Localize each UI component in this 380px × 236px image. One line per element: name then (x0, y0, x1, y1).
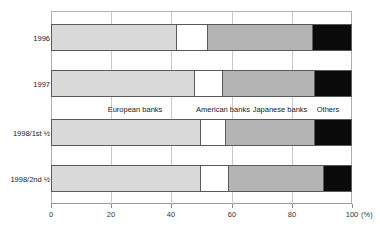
bar-segment-american-banks (195, 71, 223, 96)
bar-row (51, 165, 352, 192)
legend-label-japanese-banks: Japanese banks (253, 105, 308, 114)
legend-label-american-banks: American banks (196, 105, 250, 114)
x-axis-tick (352, 204, 353, 208)
x-axis-tick-label: 80 (288, 210, 296, 219)
bar-segment-japanese-banks (223, 71, 316, 96)
y-axis-category-label: 1997 (33, 79, 50, 88)
bar-row (51, 24, 352, 51)
x-axis-tick (111, 204, 112, 208)
bar-segment-japanese-banks (226, 120, 316, 145)
legend-label-european-banks: European banks (108, 105, 163, 114)
bar-segment-japanese-banks (208, 25, 313, 50)
x-axis-tick-label: 0 (49, 210, 53, 219)
x-axis-tick (232, 204, 233, 208)
x-axis-tick-label: 20 (107, 210, 115, 219)
bar-segment-american-banks (201, 120, 226, 145)
bar-segment-japanese-banks (229, 166, 325, 191)
x-axis-tick (51, 204, 52, 208)
bar-segment-european-banks (52, 166, 201, 191)
bar-row (51, 119, 352, 146)
x-axis-unit-label: (%) (361, 210, 373, 219)
bar-segment-american-banks (201, 166, 229, 191)
bar-segment-others (324, 166, 351, 191)
bar-segment-others (315, 120, 351, 145)
x-axis-tick-label: 40 (167, 210, 175, 219)
chart-title (0, 0, 380, 3)
bar-segment-others (315, 71, 351, 96)
x-axis-tick-label: 100 (346, 210, 359, 219)
y-axis-category-label: 1998/1st ½ (13, 128, 50, 137)
legend-label-others: Others (317, 105, 340, 114)
x-axis-tick (171, 204, 172, 208)
x-axis-tick-label: 60 (228, 210, 236, 219)
bar-segment-european-banks (52, 120, 201, 145)
stacked-bar-chart: 020406080100 (%) 199619971998/1st ½1998/… (0, 0, 380, 236)
y-axis-category-label: 1996 (33, 33, 50, 42)
bar-segment-european-banks (52, 71, 195, 96)
bar-segment-american-banks (177, 25, 208, 50)
x-axis-tick (292, 204, 293, 208)
y-axis-category-label: 1998/2nd ½ (10, 174, 50, 183)
bar-row (51, 70, 352, 97)
bar-segment-european-banks (52, 25, 177, 50)
bar-segment-others (313, 25, 351, 50)
